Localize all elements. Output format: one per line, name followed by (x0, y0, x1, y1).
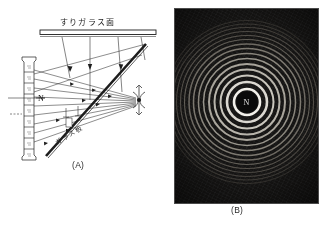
optics-figure: すりガラス面 ガラス板 N (A) N (B) (0, 0, 325, 225)
ground-glass-label: すりガラス面 (60, 16, 115, 27)
ground-glass-plate (40, 30, 156, 35)
panel-b-newtons-rings-photo: N (174, 8, 319, 204)
newtons-rings-svg (174, 12, 319, 192)
panel-a-ray-diagram: すりガラス面 ガラス板 N (0, 0, 172, 225)
central-dark-spot (236, 91, 258, 113)
caption-b: (B) (231, 205, 243, 215)
caption-a: (A) (72, 160, 84, 170)
scale-strip (22, 57, 36, 160)
ray-diagram-svg (0, 0, 172, 225)
point-n-label-a: N (38, 94, 44, 103)
converging-rays (34, 70, 136, 142)
